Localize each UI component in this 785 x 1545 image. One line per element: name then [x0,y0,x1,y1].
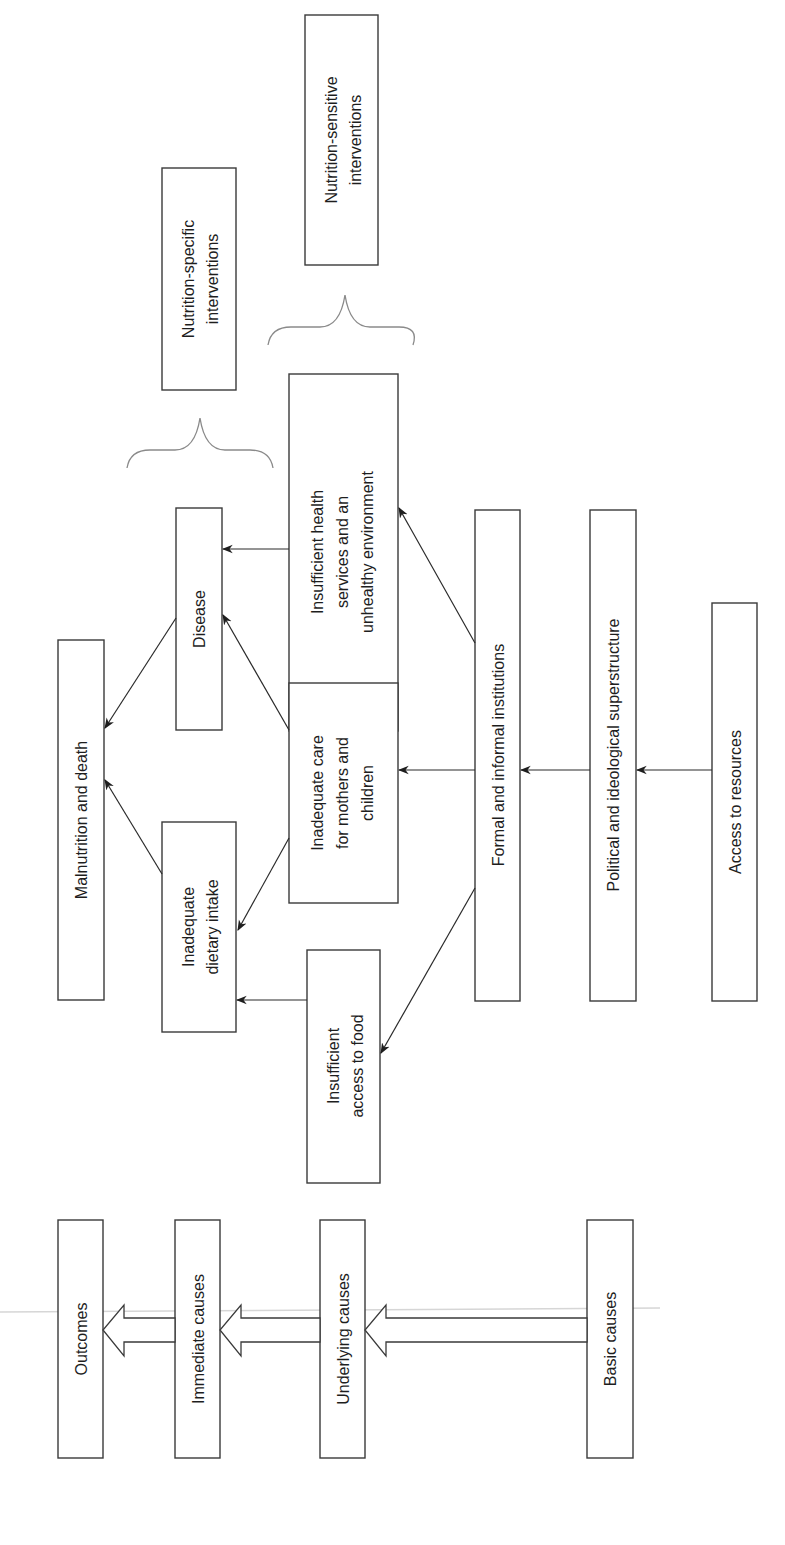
node-malnutrition-label: Malnutrition and death [73,741,90,899]
node-malnutrition-and-death: Malnutrition and death [58,640,104,1000]
level-basic-causes: Basic causes [587,1220,633,1458]
level-outcomes: Outcomes [58,1220,103,1458]
node-disease-label: Disease [191,590,208,648]
node-health-label-line3: unhealthy environment [359,471,376,633]
node-health-label-line1: Insufficient health [309,490,326,614]
edge-dietary-to-malnutrition [105,780,162,874]
level-underlying-causes: Underlying causes [320,1220,365,1458]
causal-diagram: Outcomes Immediate causes Underlying cau… [0,0,785,1545]
node-political-label: Political and ideological superstructure [605,618,622,891]
level-arrow-underlying-to-immediate [220,1305,320,1356]
node-care-label-line2: for mothers and [334,737,351,849]
edge-institutions-to-health [399,508,475,643]
level-basic-label: Basic causes [602,1292,619,1386]
node-food-label-line2: access to food [349,1014,366,1117]
level-underlying-label: Underlying causes [335,1273,352,1405]
edge-care-to-dietary [238,838,289,930]
node-inadequate-dietary-intake: Inadequate dietary intake [162,822,236,1032]
intervention-nutrition-specific: Nutrition-specific interventions [162,168,236,390]
node-food-label-line1: Insufficient [325,1027,342,1104]
brace-nutrition-specific-icon [127,418,273,468]
edge-disease-to-malnutrition [105,618,176,728]
node-access-to-resources: Access to resources [712,603,757,1001]
node-insufficient-access-to-food: Insufficient access to food [307,950,380,1183]
node-political-ideological-superstructure: Political and ideological superstructure [590,510,636,1001]
intervention-sensitive-line1: Nutrition-sensitive [323,76,340,203]
node-formal-informal-institutions: Formal and informal institutions [475,510,520,1001]
level-arrow-immediate-to-outcomes [103,1305,175,1356]
level-outcomes-label: Outcomes [73,1303,90,1376]
node-health-label-line2: services and an [334,496,351,608]
node-institutions-label: Formal and informal institutions [490,644,507,866]
brace-nutrition-sensitive-icon [268,295,414,345]
level-immediate-causes: Immediate causes [175,1220,220,1458]
intervention-specific-line1: Nutrition-specific [180,220,197,338]
node-care-label-line3: children [359,765,376,821]
node-disease: Disease [176,508,222,730]
node-dietary-label-line1: Inadequate [180,887,197,967]
node-insufficient-health-services: Insufficient health services and an unhe… [289,374,398,731]
edge-care-to-disease [223,615,289,730]
intervention-nutrition-sensitive: Nutrition-sensitive interventions [305,15,378,265]
intervention-sensitive-line2: interventions [347,95,364,186]
node-dietary-label-line2: dietary intake [204,879,221,974]
node-inadequate-care: Inadequate care for mothers and children [289,683,398,903]
intervention-specific-line2: interventions [204,234,221,325]
node-care-label-line1: Inadequate care [309,735,326,851]
level-immediate-label: Immediate causes [190,1274,207,1404]
node-resources-label: Access to resources [727,730,744,874]
level-arrow-basic-to-underlying [365,1305,587,1356]
edge-institutions-to-food [381,888,475,1053]
